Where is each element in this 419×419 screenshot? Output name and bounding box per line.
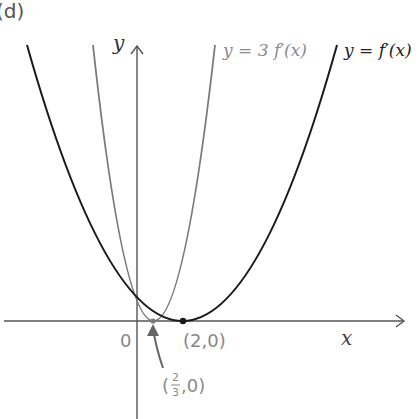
vertex-dark-label: (2,0) [183,330,226,351]
x-axis-label: x [341,326,352,350]
part-label: (d) [0,0,24,23]
y-axis-label: y [112,31,125,55]
svg-text:,0): ,0) [181,375,205,396]
axes [4,46,404,419]
curve-dark-label: y = f′(x) [343,40,412,60]
curve-light [93,45,215,321]
curve-dark [27,45,337,321]
pointer-arrowhead-icon [147,324,159,336]
vertex-light-label: ( 2 3 ,0) [162,371,205,399]
curve-light-label: y = 3 f′(x) [222,40,307,60]
svg-text:2: 2 [172,371,179,384]
svg-text:3: 3 [172,386,179,399]
vertex-light-point [150,318,155,323]
vertex-dark-point [180,318,186,324]
graph-canvas: (d) y x 0 (2,0) ( 2 3 ,0) y = 3 f′(x) y … [0,0,419,419]
origin-label: 0 [120,330,131,351]
svg-text:(: ( [162,375,169,396]
